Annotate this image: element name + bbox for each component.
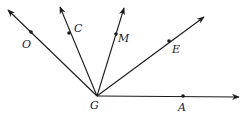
label-A: A: [177, 101, 186, 114]
label-vertex-G: G: [90, 99, 99, 112]
ray-GM: [97, 8, 124, 96]
label-E: E: [171, 43, 180, 56]
angle-rays-diagram: OCMEAG: [0, 0, 243, 116]
label-C: C: [74, 22, 83, 35]
point-O: [29, 30, 33, 34]
label-M: M: [117, 32, 130, 45]
point-A: [181, 94, 185, 98]
ray-GE: [97, 17, 204, 96]
point-E: [167, 39, 171, 43]
ray-GA: [97, 96, 239, 97]
ray-GO: [8, 10, 97, 96]
ray-GC: [60, 7, 97, 96]
point-C: [67, 31, 71, 35]
label-O: O: [22, 38, 31, 51]
